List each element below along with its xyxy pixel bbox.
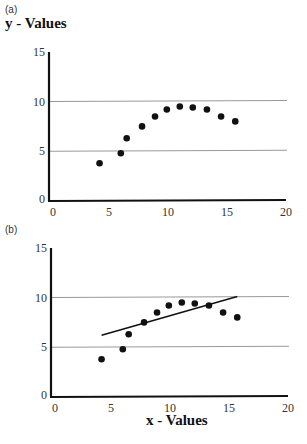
data-point bbox=[120, 346, 127, 353]
data-point bbox=[164, 106, 171, 113]
y-tick-label: 15 bbox=[33, 45, 45, 59]
data-point bbox=[191, 300, 198, 307]
charts-canvas: 0510150510152005101505101520 bbox=[0, 0, 307, 444]
x-tick-label: 10 bbox=[162, 205, 174, 219]
data-point bbox=[218, 113, 225, 120]
y-tick-label: 0 bbox=[41, 388, 47, 402]
x-tick-label: 0 bbox=[50, 205, 56, 219]
data-point bbox=[96, 160, 103, 167]
x-axis bbox=[48, 200, 286, 201]
data-point bbox=[98, 356, 105, 363]
gridline bbox=[51, 297, 289, 298]
y-tick-label: 5 bbox=[41, 340, 47, 354]
data-point bbox=[118, 150, 125, 157]
x-axis bbox=[50, 396, 288, 397]
y-tick-label: 0 bbox=[39, 192, 45, 206]
data-point bbox=[189, 104, 196, 111]
gridline bbox=[49, 101, 287, 102]
data-point bbox=[232, 118, 239, 125]
data-point bbox=[234, 314, 241, 321]
x-tick-label: 15 bbox=[221, 205, 233, 219]
y-tick-label: 5 bbox=[39, 144, 45, 158]
data-point bbox=[179, 299, 186, 306]
y-tick-label: 10 bbox=[33, 95, 45, 109]
data-point bbox=[166, 302, 173, 309]
y-tick-label: 15 bbox=[35, 241, 47, 255]
x-tick-label: 5 bbox=[106, 205, 112, 219]
x-tick-label: 20 bbox=[280, 205, 292, 219]
x-tick-label: 5 bbox=[108, 401, 114, 415]
x-tick-label: 20 bbox=[282, 401, 294, 415]
x-tick-label: 15 bbox=[223, 401, 235, 415]
data-point bbox=[177, 103, 184, 110]
gridline bbox=[51, 346, 289, 347]
y-tick-label: 10 bbox=[35, 291, 47, 305]
data-point bbox=[152, 113, 159, 120]
gridline bbox=[49, 150, 287, 151]
data-point bbox=[154, 309, 161, 316]
data-point bbox=[220, 309, 227, 316]
data-point bbox=[139, 123, 146, 130]
x-tick-label: 10 bbox=[164, 401, 176, 415]
data-point bbox=[123, 135, 130, 142]
x-tick-label: 0 bbox=[52, 401, 58, 415]
data-point bbox=[125, 331, 132, 338]
data-point bbox=[204, 106, 211, 113]
